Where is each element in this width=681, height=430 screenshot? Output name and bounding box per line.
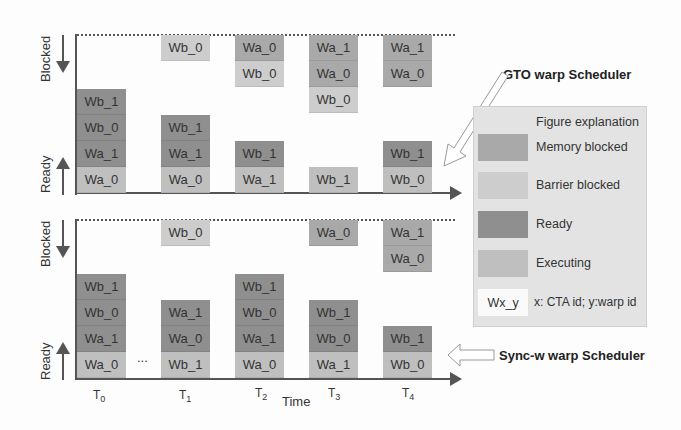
warp-cell-ready: Wa_1 <box>309 352 358 378</box>
warp-cell-ready: Wa_0 <box>161 167 210 193</box>
legend-swatch-memory-blocked <box>478 134 528 161</box>
warp-cell-blocked: Wa_0 <box>383 246 432 272</box>
warp-cell-ready: Wb_1 <box>77 89 126 115</box>
x-axis-label: Time <box>282 394 310 409</box>
syncw-callout-label: Sync-w warp Scheduler <box>499 348 645 363</box>
warp-cell-ready: Wb_0 <box>77 115 126 141</box>
bottom-down-arrow-icon <box>56 220 70 258</box>
warp-cell-blocked: Wa_1 <box>383 35 432 61</box>
tick-t0: T0 <box>93 388 105 404</box>
warp-cell-ready: Wa_1 <box>161 141 210 167</box>
top-down-arrow-icon <box>56 35 70 73</box>
warp-cell-blocked: Wa_0 <box>235 35 284 61</box>
warp-cell-ready: Wb_1 <box>235 141 284 167</box>
warp-cell-ready: Wa_0 <box>235 352 284 378</box>
legend-notation-text: x: CTA id; y:warp id <box>534 295 636 309</box>
warp-cell-ready: Wa_1 <box>161 300 210 326</box>
top-blocked-label: Blocked <box>38 36 53 82</box>
legend-swatch-barrier-blocked <box>478 172 528 199</box>
warp-cell-blocked: Wa_0 <box>309 220 358 246</box>
warp-cell-blocked: Wa_1 <box>309 35 358 61</box>
warp-cell-ready: Wb_0 <box>77 300 126 326</box>
warp-cell-ready: Wa_1 <box>77 326 126 352</box>
legend-label-executing: Executing <box>536 256 591 270</box>
tick-t3: T3 <box>328 386 340 402</box>
warp-cell-blocked: Wb_0 <box>235 61 284 87</box>
bottom-up-arrow-icon <box>56 342 70 380</box>
warp-cell-ready: Wb_0 <box>383 352 432 378</box>
warp-cell-ready: Wb_0 <box>383 167 432 193</box>
warp-cell-ready: Wa_0 <box>161 326 210 352</box>
gto-callout-label: GTO warp Scheduler <box>503 67 631 82</box>
warp-cell-ready: Wa_0 <box>77 167 126 193</box>
warp-cell-blocked: Wa_0 <box>309 61 358 87</box>
bottom-ready-label: Ready <box>38 342 53 380</box>
top-ready-label: Ready <box>38 155 53 193</box>
legend-label-memory-blocked: Memory blocked <box>536 140 628 154</box>
legend-label-ready: Ready <box>536 217 572 231</box>
bottom-time-arrowhead-icon <box>450 372 462 386</box>
warp-cell-ready: Wb_1 <box>383 141 432 167</box>
tick-t1: T1 <box>179 388 191 404</box>
bottom-blocked-label: Blocked <box>38 221 53 267</box>
legend-label-barrier-blocked: Barrier blocked <box>536 178 620 192</box>
tick-t4: T4 <box>402 386 414 402</box>
legend-swatch-ready <box>478 211 528 238</box>
legend-swatch-executing <box>478 250 528 277</box>
warp-cell-ready: Wb_0 <box>235 300 284 326</box>
warp-cell-ready: Wb_0 <box>309 326 358 352</box>
warp-cell-blocked: Wb_0 <box>309 87 358 113</box>
top-up-arrow-icon <box>56 157 70 195</box>
tick-t2: T2 <box>255 386 267 402</box>
warp-cell-blocked: Wa_1 <box>383 220 432 246</box>
syncw-callout-arrow-icon <box>446 342 496 368</box>
warp-cell-ready: Wa_1 <box>235 326 284 352</box>
warp-cell-blocked: Wb_0 <box>161 220 210 246</box>
warp-cell-ready: Wb_1 <box>161 352 210 378</box>
ellipsis: ... <box>137 350 148 365</box>
warp-cell-ready: Wb_1 <box>77 274 126 300</box>
warp-cell-ready: Wb_1 <box>161 115 210 141</box>
legend-notation-sample: Wx_y <box>478 289 528 316</box>
legend-title: Figure explanation <box>536 115 639 129</box>
warp-cell-blocked: Wa_0 <box>383 61 432 87</box>
warp-cell-ready: Wb_1 <box>383 326 432 352</box>
warp-cell-ready: Wb_1 <box>235 274 284 300</box>
warp-cell-ready: Wb_1 <box>309 167 358 193</box>
legend: Figure explanation Memory blocked Barrie… <box>473 106 647 327</box>
warp-cell-ready: Wa_1 <box>235 167 284 193</box>
bottom-time-axis <box>75 378 453 380</box>
warp-cell-ready: Wa_0 <box>77 352 126 378</box>
warp-cell-ready: Wa_1 <box>77 141 126 167</box>
warp-cell-ready: Wb_1 <box>309 300 358 326</box>
warp-cell-blocked: Wb_0 <box>161 35 210 61</box>
top-time-arrowhead-icon <box>450 186 462 200</box>
